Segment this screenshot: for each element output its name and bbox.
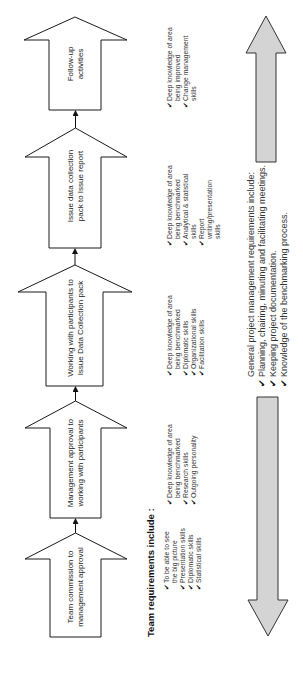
requirement-item: ✔Organizational skills [190, 294, 198, 376]
requirement-item: ✔Presentation skills [179, 528, 187, 590]
check-icon: ✔ [268, 379, 279, 387]
check-icon: ✔ [166, 499, 174, 505]
general-requirements: General project management requirements … [246, 165, 290, 387]
requirement-item: ✔Research skills [182, 423, 190, 505]
check-icon: ✔ [182, 499, 190, 505]
step-2-line-2: working with participants [76, 411, 86, 515]
check-icon: ✔ [279, 379, 290, 387]
general-requirement-item: ✔Planning, chairing, minuting and facili… [257, 165, 268, 387]
general-requirements-title: General project management requirements … [246, 165, 257, 387]
check-icon: ✔ [179, 584, 187, 590]
check-icon: ✔ [195, 584, 203, 590]
check-icon: ✔ [182, 370, 190, 376]
requirement-item: ✔Change management skills [182, 26, 198, 108]
check-icon: ✔ [198, 370, 206, 376]
step-4-line-2: pack to Issue report [76, 132, 86, 240]
step-5-line-2: activities [76, 28, 86, 100]
requirement-item: ✔To be able to see the big picture [163, 528, 179, 590]
check-icon: ✔ [182, 102, 190, 108]
requirement-item: ✔Diplomatic skills [187, 528, 195, 590]
requirements-column-3: ✔Deep knowledge of area being benchmarke… [166, 294, 206, 376]
check-icon: ✔ [190, 370, 198, 376]
step-3-line-1: Working with participants to [66, 266, 76, 390]
span-arrow-down [248, 397, 288, 636]
step-1-line-1: Team commission to [66, 541, 76, 633]
requirement-item: ✔Statistical skills [195, 528, 203, 590]
check-icon: ✔ [198, 240, 206, 246]
span-arrow-up [246, 16, 286, 162]
requirement-item: ✔Deep knowledge of area being benchmarke… [166, 423, 182, 505]
requirement-item: ✔Facilitation skills [198, 294, 206, 376]
step-label-2: Management approval to working with part… [66, 411, 85, 515]
step-3-line-2: Issue Data Collection pack [76, 266, 86, 390]
requirements-column-5: ✔Deep knowledge of area being improved ✔… [166, 26, 198, 108]
general-requirement-item: ✔Keeping project documentation. [268, 165, 279, 387]
requirement-item: ✔Analytical & statistical skills [182, 164, 198, 246]
requirement-item: ✔Diplomatic skills [182, 294, 190, 376]
requirement-item: ✔Deep knowledge of area being benchmarke… [166, 164, 182, 246]
step-label-4: Issue data collection pack to Issue repo… [66, 132, 85, 240]
requirement-item: ✔Deep knowledge of area being improved [166, 26, 182, 108]
step-label-1: Team commission to management approval [66, 541, 85, 633]
step-label-3: Working with participants to Issue Data … [66, 266, 85, 390]
check-icon: ✔ [166, 370, 174, 376]
step-5-line-1: Follow-up [66, 28, 76, 100]
check-icon: ✔ [182, 240, 190, 246]
check-icon: ✔ [190, 499, 198, 505]
check-icon: ✔ [257, 379, 268, 387]
requirement-item: ✔Report writing/presentation skills [198, 164, 222, 246]
requirement-item: ✔Deep knowledge of area being benchmarke… [166, 294, 182, 376]
check-icon: ✔ [163, 584, 171, 590]
step-4-line-1: Issue data collection [66, 132, 76, 240]
check-icon: ✔ [187, 584, 195, 590]
check-icon: ✔ [166, 102, 174, 108]
general-requirement-item: ✔Knowledge of the benchmarking process. [279, 165, 290, 387]
step-label-5: Follow-up activities [66, 28, 85, 100]
team-requirements-title: Team requirements include : [145, 508, 156, 637]
step-2-line-1: Management approval to [66, 411, 76, 515]
check-icon: ✔ [166, 240, 174, 246]
requirement-item: ✔Outgoing personality [190, 423, 198, 505]
step-1-line-2: management approval [76, 541, 86, 633]
requirements-column-4: ✔Deep knowledge of area being benchmarke… [166, 164, 222, 246]
requirements-column-2: ✔Deep knowledge of area being benchmarke… [166, 423, 198, 505]
requirements-column-1: ✔To be able to see the big picture ✔Pres… [163, 528, 203, 590]
